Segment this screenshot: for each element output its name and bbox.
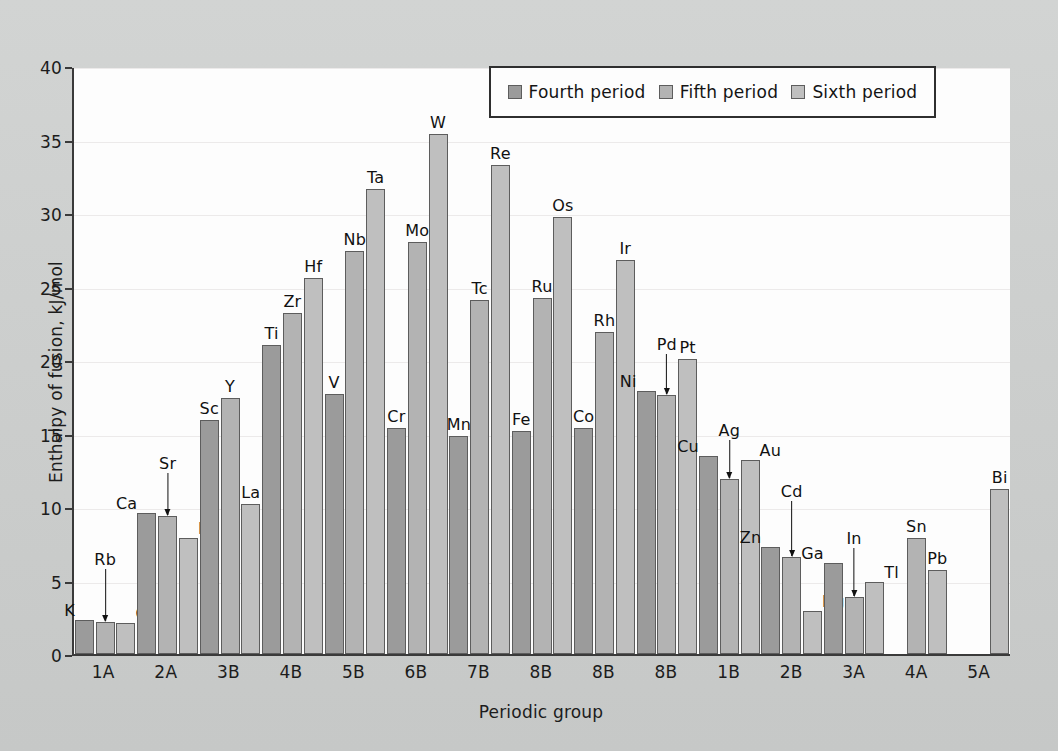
bar-fe[interactable]: Fe (512, 431, 531, 654)
bar-zr[interactable]: Zr (283, 313, 302, 654)
bar-group-6b-5: CrMoW (386, 68, 448, 654)
bar-slot: Sn (906, 68, 927, 654)
bar-slot (948, 68, 969, 654)
bar-label-mo: Mo (405, 221, 429, 240)
bar-bi[interactable]: Bi (990, 489, 1009, 654)
bar-pb[interactable]: Pb (928, 570, 947, 654)
y-tick-label: 10 (0, 499, 62, 519)
bar-ba[interactable]: Ba (179, 538, 198, 654)
bar-nb[interactable]: Nb (345, 251, 364, 654)
bar-au[interactable]: Au (741, 460, 760, 654)
bar-ca[interactable]: Ca (137, 513, 156, 654)
bar-slot: Ni (636, 68, 657, 654)
bar-slot: Pb (927, 68, 948, 654)
bar-group-2a-1: CaSrBa (136, 68, 198, 654)
bar-label-fe: Fe (512, 410, 531, 429)
bar-label-sc: Sc (200, 399, 219, 418)
bar-slot: Cu (698, 68, 719, 654)
bar-sn[interactable]: Sn (907, 538, 926, 654)
bar-slot: Mo (407, 68, 428, 654)
bar-ta[interactable]: Ta (366, 189, 385, 654)
bar-slot: In (844, 68, 865, 654)
bar-slot: Ba (178, 68, 199, 654)
bar-group-5b-4: VNbTa (324, 68, 386, 654)
bar-slot: Hg (802, 68, 823, 654)
bar-rh[interactable]: Rh (595, 332, 614, 654)
bar-in[interactable]: In (845, 597, 864, 654)
bar-ir[interactable]: Ir (616, 260, 635, 654)
y-tick-label: 40 (0, 58, 62, 78)
bar-pd[interactable]: Pd (657, 395, 676, 654)
bar-zn[interactable]: Zn (761, 547, 780, 654)
bar-slot: Ir (615, 68, 636, 654)
bar-label-ga: Ga (801, 544, 824, 563)
bar-ni[interactable]: Ni (637, 391, 656, 654)
legend-entry-p5[interactable]: Fifth period (659, 82, 778, 102)
x-tick-label-10: 1B (697, 662, 760, 696)
bar-slot: W (428, 68, 449, 654)
bar-label-ru: Ru (532, 277, 553, 296)
callout-arrow-icon (666, 354, 667, 394)
bar-mn[interactable]: Mn (449, 436, 468, 654)
bar-pt[interactable]: Pt (678, 359, 697, 654)
bar-label-pt: Pt (679, 338, 695, 357)
bar-la[interactable]: La (241, 504, 260, 654)
bar-rb[interactable]: Rb (96, 622, 115, 654)
bar-sr[interactable]: Sr (158, 516, 177, 654)
y-tick-mark (65, 288, 72, 290)
bar-label-v: V (328, 373, 339, 392)
bar-label-zn: Zn (740, 528, 762, 547)
bar-slot: Cs (116, 68, 137, 654)
bar-hg[interactable]: Hg (803, 611, 822, 654)
bar-slot: Ta (365, 68, 386, 654)
bar-label-re: Re (490, 144, 511, 163)
legend-entry-p4[interactable]: Fourth period (508, 82, 646, 102)
bar-w[interactable]: W (429, 134, 448, 654)
bar-label: Pd (657, 337, 677, 354)
bar-label: Sr (159, 456, 176, 473)
bar-label-ta: Ta (367, 168, 384, 187)
bar-cu[interactable]: Cu (699, 456, 718, 654)
bar-label-la: La (241, 483, 260, 502)
bar-tl[interactable]: Tl (865, 582, 884, 654)
bar-os[interactable]: Os (553, 217, 572, 654)
figure-canvas: Enthalpy of fusion, kJ/mol KRbCsCaSrBaSc… (0, 0, 1058, 751)
bar-cd[interactable]: Cd (782, 557, 801, 654)
legend-label: Sixth period (812, 82, 917, 102)
bar-label-ir: Ir (619, 239, 631, 258)
bar-co[interactable]: Co (574, 428, 593, 654)
bar-slot: Nb (344, 68, 365, 654)
bar-label-pb: Pb (927, 549, 947, 568)
bar-sc[interactable]: Sc (200, 420, 219, 654)
bar-callout-sr: Sr (159, 456, 176, 515)
bar-slot: Rb (95, 68, 116, 654)
bar-ru[interactable]: Ru (533, 298, 552, 654)
bar-tc[interactable]: Tc (470, 300, 489, 654)
bar-v[interactable]: V (325, 394, 344, 654)
bar-cs[interactable]: Cs (116, 623, 135, 654)
x-tick-label-2: 3B (197, 662, 260, 696)
bar-ag[interactable]: Ag (720, 479, 739, 654)
legend-entry-p6[interactable]: Sixth period (791, 82, 917, 102)
bar-ga[interactable]: Ga (824, 563, 843, 654)
bar-slot: Pt (677, 68, 698, 654)
bar-mo[interactable]: Mo (408, 242, 427, 654)
y-tick-label: 35 (0, 132, 62, 152)
bar-slot: Co (573, 68, 594, 654)
bar-cr[interactable]: Cr (387, 428, 406, 654)
bar-y[interactable]: Y (221, 398, 240, 654)
bar-hf[interactable]: Hf (304, 278, 323, 654)
bar-slot: Zn (760, 68, 781, 654)
y-tick-mark (65, 361, 72, 363)
bar-re[interactable]: Re (491, 165, 510, 655)
bar-ti[interactable]: Ti (262, 345, 281, 654)
callout-arrow-icon (729, 440, 730, 478)
bar-slot: Fe (511, 68, 532, 654)
bar-k[interactable]: K (75, 620, 94, 654)
y-tick-label: 15 (0, 426, 62, 446)
bar-label-co: Co (573, 407, 594, 426)
bar-group-3a-12: GaInTl (823, 68, 885, 654)
bar-slot (968, 68, 989, 654)
bar-slot: Re (490, 68, 511, 654)
bar-label-hf: Hf (304, 257, 322, 276)
